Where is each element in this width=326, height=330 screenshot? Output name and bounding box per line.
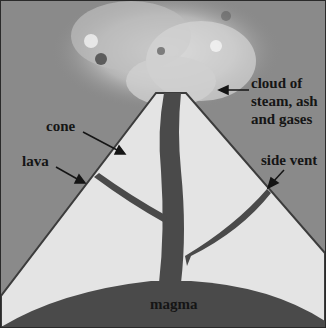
label-cloud-line3: and gases xyxy=(251,112,312,127)
label-side-vent: side vent xyxy=(261,153,317,168)
label-cloud-line1: cloud of xyxy=(251,76,302,91)
label-cone: cone xyxy=(46,119,75,134)
label-cloud-line2: steam, ash xyxy=(251,94,318,109)
volcano-diagram: cloud of steam, ash and gases cone lava … xyxy=(0,0,326,328)
label-magma: magma xyxy=(150,297,198,312)
label-lava: lava xyxy=(22,154,49,169)
